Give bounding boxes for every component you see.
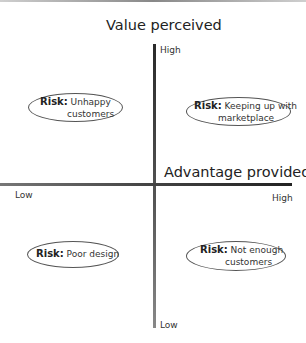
risk-label: Risk:	[200, 244, 228, 255]
risk-text: Poor design	[67, 249, 120, 259]
y-axis-high-label: High	[160, 45, 181, 55]
risk-text-line2: customers	[67, 109, 114, 119]
risk-text: Unhappy	[71, 97, 111, 107]
x-axis-line	[0, 183, 292, 186]
y-axis-line	[153, 44, 156, 328]
x-axis-title: Advantage provided	[164, 164, 306, 180]
risk-text: Keeping up with	[225, 101, 297, 111]
risk-text-line2: marketplace	[218, 113, 274, 123]
x-axis-low-label: Low	[15, 190, 33, 200]
risk-label: Risk:	[194, 100, 222, 111]
risk-bubble-top-right: Risk: Keeping up with marketplace	[186, 97, 291, 126]
risk-label: Risk:	[40, 96, 68, 107]
risk-bubble-bottom-left: Risk: Poor design	[27, 241, 119, 268]
risk-text-line2: customers	[225, 257, 272, 267]
x-axis-high-label: High	[272, 193, 293, 203]
risk-bubble-top-left: Risk: Unhappy customers	[28, 93, 123, 122]
y-axis-low-label: Low	[160, 320, 178, 330]
risk-text: Not enough	[231, 245, 284, 255]
risk-label: Risk:	[36, 248, 64, 259]
top-border	[0, 0, 306, 2]
risk-bubble-bottom-right: Risk: Not enough customers	[186, 241, 286, 271]
y-axis-title: Value perceived	[106, 17, 222, 33]
